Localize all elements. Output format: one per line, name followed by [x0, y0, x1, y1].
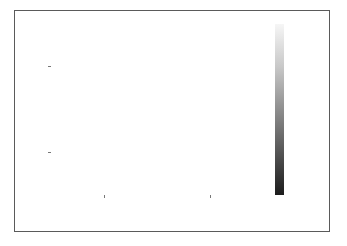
x-tick-mark	[104, 195, 105, 198]
heatmap-cell-true-negative-pred-negative	[51, 24, 157, 109]
y-tick-mark	[48, 152, 51, 153]
x-tick-mark	[210, 195, 211, 198]
heatmap-cell-true-positive-pred-negative	[51, 109, 157, 195]
heatmap-cell-true-positive-pred-positive	[157, 109, 262, 195]
y-tick-mark	[48, 66, 51, 67]
colorbar	[275, 24, 284, 195]
heatmap-cell-true-negative-pred-positive	[157, 24, 262, 109]
